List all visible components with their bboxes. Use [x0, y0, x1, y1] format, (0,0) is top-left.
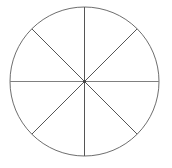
canvas-background	[0, 0, 172, 168]
fraction-circle-canvas	[0, 0, 172, 168]
center-point-dot	[83, 80, 86, 83]
fraction-circle-figure	[0, 0, 172, 168]
